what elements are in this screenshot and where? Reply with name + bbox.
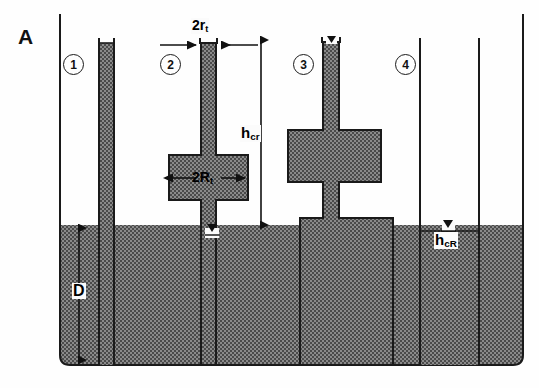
depth-label: D <box>72 283 86 299</box>
tube-4-level-marker <box>441 220 456 231</box>
tube-3 <box>288 36 393 365</box>
tube-radius-label: 2rt <box>191 18 209 34</box>
critical-height-label: hcr <box>240 125 261 142</box>
tube-1-water <box>100 43 113 365</box>
tube-3-water-and-body <box>288 42 393 365</box>
tube-4-water <box>421 231 478 365</box>
tube-1-number: 1 <box>63 54 84 75</box>
panel-label: A <box>18 26 33 47</box>
chamber-radius-label: 2Rt <box>191 170 214 186</box>
critical-height-R-label: hcR <box>434 232 458 249</box>
tube-3-number: 3 <box>293 54 314 75</box>
tube-1 <box>99 38 114 365</box>
figure-panel: A 1 2 3 4 2rt 2Rt hcr hcR D <box>0 0 539 388</box>
tube-4 <box>420 38 479 365</box>
tube-2-number: 2 <box>160 54 181 75</box>
tube-3-meniscus-marker <box>326 36 337 44</box>
tube-4-number: 4 <box>395 54 416 75</box>
